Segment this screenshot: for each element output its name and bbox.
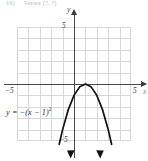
curve-arrow-right-icon	[96, 150, 104, 158]
caption-number: 10)	[6, 0, 15, 6]
curve-arrow-left-icon	[67, 150, 75, 158]
figure-caption: 10)Vertex (?, ?)	[6, 0, 142, 7]
caption-text: Vertex (?, ?)	[24, 0, 57, 6]
parabola-figure: 10)Vertex (?, ?)	[0, 0, 148, 161]
parabola-path	[59, 84, 111, 144]
plot-area: y x 5 −5 −5 5 y = −(x − 1)2	[0, 8, 148, 161]
parabola-curve	[0, 8, 148, 161]
